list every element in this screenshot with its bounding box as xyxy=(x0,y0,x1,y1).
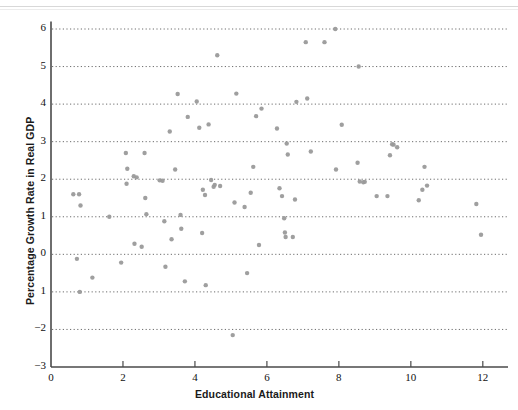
data-point xyxy=(90,275,94,279)
data-point xyxy=(124,182,128,186)
data-point xyxy=(333,27,337,31)
x-tick-label-12: 12 xyxy=(471,371,495,383)
data-point xyxy=(232,200,236,204)
x-tick-label-4: 4 xyxy=(183,371,207,383)
x-tick-label-8: 8 xyxy=(327,371,351,383)
x-tick-label-10: 10 xyxy=(399,371,423,383)
data-point xyxy=(218,184,222,188)
data-point xyxy=(77,192,81,196)
data-point xyxy=(186,115,190,119)
x-tick-marks-group xyxy=(123,361,483,367)
data-point xyxy=(231,333,235,337)
data-point xyxy=(259,106,263,110)
data-point xyxy=(305,96,309,100)
data-point xyxy=(322,40,326,44)
data-point xyxy=(286,152,290,156)
data-point xyxy=(294,100,298,104)
data-point xyxy=(132,242,136,246)
data-point xyxy=(283,235,287,239)
data-point xyxy=(107,215,111,219)
data-point xyxy=(420,188,424,192)
x-tick-label-2: 2 xyxy=(111,371,135,383)
x-tick-label-0: 0 xyxy=(39,371,63,383)
data-point xyxy=(175,92,179,96)
data-point xyxy=(71,192,75,196)
data-point xyxy=(143,196,147,200)
scatter-plot-figure: −3−210123456 024681012 Percentage Growth… xyxy=(0,0,518,410)
axes-group xyxy=(51,21,508,367)
data-point xyxy=(363,180,367,184)
data-point xyxy=(213,183,217,187)
data-point xyxy=(209,178,213,182)
y-tick-label--3: −3 xyxy=(24,359,46,371)
data-point xyxy=(283,230,287,234)
y-tick-label-6: 6 xyxy=(24,21,46,33)
data-point xyxy=(203,193,207,197)
data-point xyxy=(334,167,338,171)
data-point xyxy=(422,165,426,169)
data-point xyxy=(144,212,148,216)
data-point xyxy=(245,271,249,275)
data-point xyxy=(417,198,421,202)
data-point xyxy=(282,216,286,220)
data-point xyxy=(285,141,289,145)
data-point xyxy=(163,265,167,269)
plot-canvas xyxy=(0,0,518,410)
data-point xyxy=(275,126,279,130)
data-point xyxy=(160,179,164,183)
data-point xyxy=(124,151,128,155)
x-tick-label-6: 6 xyxy=(255,371,279,383)
data-points-group xyxy=(71,27,483,337)
data-point xyxy=(291,235,295,239)
data-point xyxy=(204,283,208,287)
data-point xyxy=(75,257,79,261)
data-point xyxy=(280,194,284,198)
data-point xyxy=(142,151,146,155)
data-point xyxy=(201,188,205,192)
data-point xyxy=(206,122,210,126)
data-point xyxy=(340,123,344,127)
data-point xyxy=(474,202,478,206)
y-tick-label-4: 4 xyxy=(24,96,46,108)
x-axis-title: Educational Attainment xyxy=(195,388,314,400)
data-point xyxy=(356,64,360,68)
y-tick-label-5: 5 xyxy=(24,59,46,71)
data-point xyxy=(391,142,395,146)
data-point xyxy=(257,243,261,247)
gridlines-group xyxy=(52,29,508,329)
data-point xyxy=(251,165,255,169)
data-point xyxy=(395,145,399,149)
data-point xyxy=(125,167,129,171)
data-point xyxy=(134,175,138,179)
data-point xyxy=(234,91,238,95)
data-point xyxy=(242,205,246,209)
data-point xyxy=(178,213,182,217)
data-point xyxy=(197,126,201,130)
data-point xyxy=(425,183,429,187)
data-point xyxy=(309,149,313,153)
data-point xyxy=(215,53,219,57)
data-point xyxy=(168,129,172,133)
data-point xyxy=(479,233,483,237)
data-point xyxy=(139,245,143,249)
data-point xyxy=(277,186,281,190)
data-point xyxy=(195,99,199,103)
y-tick-label--2: −2 xyxy=(24,321,46,333)
data-point xyxy=(254,114,258,118)
data-point xyxy=(78,290,82,294)
data-point xyxy=(374,194,378,198)
data-point xyxy=(78,203,82,207)
data-point xyxy=(249,191,253,195)
data-point xyxy=(162,219,166,223)
y-axis-title: Percentage Growth Rate in Real GDP xyxy=(24,117,36,305)
data-point xyxy=(183,279,187,283)
data-point xyxy=(169,237,173,241)
data-point xyxy=(293,197,297,201)
data-point xyxy=(179,227,183,231)
data-point xyxy=(119,260,123,264)
data-point xyxy=(304,40,308,44)
data-point xyxy=(200,231,204,235)
data-point xyxy=(355,161,359,165)
data-point xyxy=(385,194,389,198)
data-point xyxy=(388,153,392,157)
